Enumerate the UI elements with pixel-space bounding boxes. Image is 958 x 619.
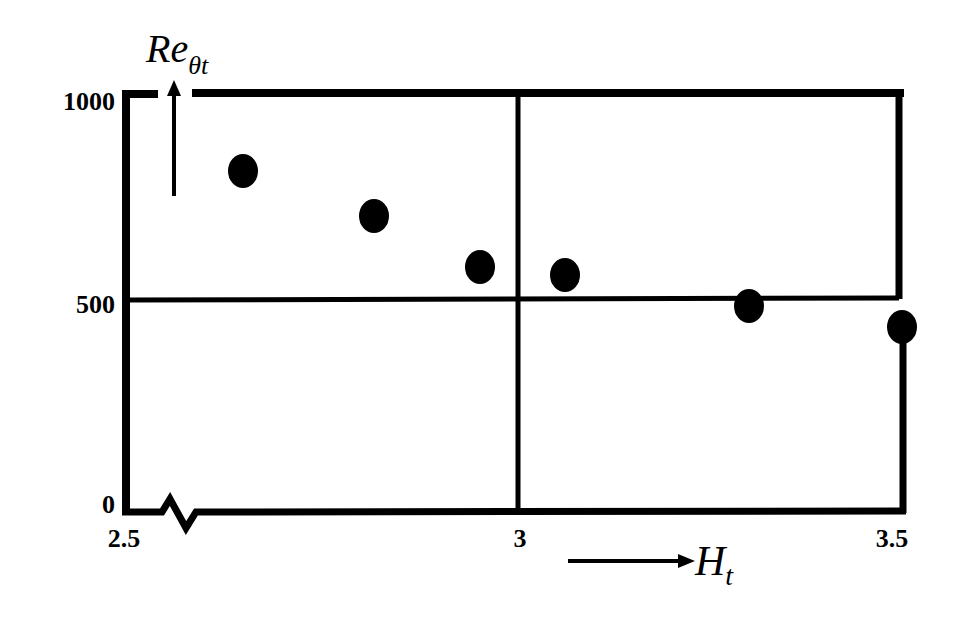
data-points: [228, 154, 917, 344]
y-axis-label-main: Re: [145, 26, 188, 71]
data-point: [550, 258, 580, 292]
x-axis-label-sub: t: [725, 560, 734, 591]
x-axis-label: Ht: [694, 538, 734, 591]
y-axis-label: Reθt: [145, 26, 209, 80]
gridline-y-500: [126, 298, 899, 300]
y-tick-0: 0: [102, 490, 115, 519]
y-axis-arrow-icon: [167, 80, 181, 96]
y-axis-label-sub: θt: [188, 51, 209, 80]
data-point: [887, 310, 917, 344]
x-tick-3: 3: [514, 524, 527, 553]
data-point: [228, 154, 258, 188]
x-axis-label-main: H: [694, 538, 728, 584]
y-tick-500: 500: [76, 290, 115, 319]
y-tick-1000: 1000: [63, 87, 115, 116]
data-point: [465, 250, 495, 284]
x-tick-3-5: 3.5: [876, 524, 909, 553]
data-point: [734, 289, 764, 323]
x-tick-2-5: 2.5: [108, 524, 141, 553]
scatter-chart: 1000 500 0 2.5 3 3.5 Reθt Ht: [0, 0, 958, 619]
x-axis-arrow-icon: [678, 554, 695, 568]
data-point: [359, 199, 389, 233]
